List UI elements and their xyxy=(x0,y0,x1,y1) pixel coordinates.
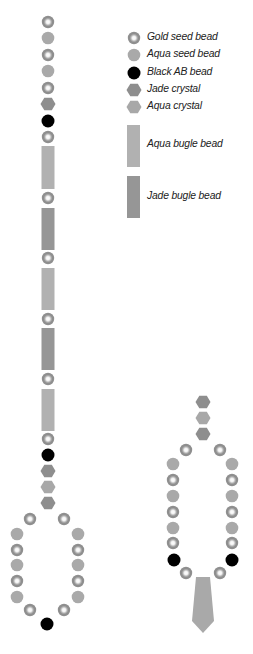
black-ab-bead xyxy=(42,115,55,128)
jade-crystal-bead xyxy=(41,497,56,509)
strand-necklace xyxy=(11,16,85,631)
gold-seed-bead xyxy=(11,575,23,587)
aqua-seed-bead xyxy=(11,559,24,572)
black-ab-bead xyxy=(42,449,55,462)
aqua-seed-bead xyxy=(226,522,239,535)
aqua-bugle-bead xyxy=(42,268,55,310)
aqua-seed-bead xyxy=(72,559,85,572)
gold-seed-bead xyxy=(42,49,54,61)
aqua-seed-bead xyxy=(226,458,239,471)
black-ab-bead xyxy=(168,554,181,567)
legend-label-black-ab: Black AB bead xyxy=(147,65,212,77)
legend xyxy=(127,32,142,218)
gold-seed-bead xyxy=(24,604,36,616)
aqua-seed-bead xyxy=(167,490,180,503)
gold-seed-bead xyxy=(180,444,192,456)
aqua-seed-bead xyxy=(11,591,24,604)
gold-seed-bead xyxy=(214,567,226,579)
gold-seed-bead xyxy=(226,506,238,518)
gold-seed-bead xyxy=(167,474,179,486)
aqua-seed-bead xyxy=(226,490,239,503)
gold-seed-bead xyxy=(226,474,238,486)
jade-bugle-legend-icon xyxy=(127,176,140,218)
gold-seed-bead xyxy=(58,513,70,525)
aqua-seed-bead xyxy=(167,522,180,535)
gold-seed-bead xyxy=(128,32,140,44)
beading-diagram: Gold seed bead Aqua seed bead Black AB b… xyxy=(0,0,253,654)
aqua-seed-bead xyxy=(128,49,141,62)
aqua-seed-bead xyxy=(72,528,85,541)
aqua-bugle-legend-icon xyxy=(127,125,140,167)
aqua-crystal-bead xyxy=(127,101,142,113)
aqua-seed-bead xyxy=(11,528,24,541)
aqua-seed-bead xyxy=(72,591,85,604)
jade-bugle-bead xyxy=(42,208,55,250)
gold-seed-bead xyxy=(42,82,54,94)
pendant-drop xyxy=(192,577,214,633)
gold-seed-bead xyxy=(42,131,54,143)
legend-label-aqua-seed: Aqua seed bead xyxy=(147,47,220,59)
aqua-seed-bead xyxy=(42,32,55,45)
diagram-svg xyxy=(0,0,253,654)
gold-seed-bead xyxy=(42,433,54,445)
legend-label-aqua-crystal: Aqua crystal xyxy=(147,99,202,111)
gold-seed-bead xyxy=(214,444,226,456)
jade-crystal-bead xyxy=(41,98,56,110)
aqua-bugle-bead xyxy=(42,389,55,431)
legend-label-gold-seed: Gold seed bead xyxy=(147,30,218,42)
gold-seed-bead xyxy=(42,252,54,264)
aqua-crystal-bead xyxy=(41,481,56,493)
gold-seed-bead xyxy=(42,192,54,204)
pendant-earring xyxy=(167,396,239,633)
jade-crystal-bead xyxy=(196,428,211,440)
legend-label-aqua-bugle: Aqua bugle bead xyxy=(147,137,223,149)
aqua-bugle-bead xyxy=(42,146,55,189)
gold-seed-bead xyxy=(42,373,54,385)
jade-crystal-bead xyxy=(127,84,142,96)
legend-label-jade-crystal: Jade crystal xyxy=(147,82,200,94)
jade-bugle-bead xyxy=(42,328,55,370)
jade-crystal-bead xyxy=(41,465,56,477)
gold-seed-bead xyxy=(180,567,192,579)
gold-seed-bead xyxy=(24,513,36,525)
gold-seed-bead xyxy=(226,537,238,549)
gold-seed-bead xyxy=(42,16,54,28)
gold-seed-bead xyxy=(167,537,179,549)
black-ab-bead xyxy=(41,618,54,631)
black-ab-bead xyxy=(226,554,239,567)
aqua-seed-bead xyxy=(167,458,180,471)
jade-crystal-bead xyxy=(196,396,211,408)
aqua-seed-bead xyxy=(42,65,55,78)
gold-seed-bead xyxy=(42,313,54,325)
gold-seed-bead xyxy=(72,544,84,556)
gold-seed-bead xyxy=(72,575,84,587)
black-ab-bead xyxy=(128,67,141,80)
gold-seed-bead xyxy=(11,544,23,556)
gold-seed-bead xyxy=(58,604,70,616)
legend-label-jade-bugle: Jade bugle bead xyxy=(147,189,221,201)
gold-seed-bead xyxy=(167,506,179,518)
aqua-crystal-bead xyxy=(196,412,211,424)
